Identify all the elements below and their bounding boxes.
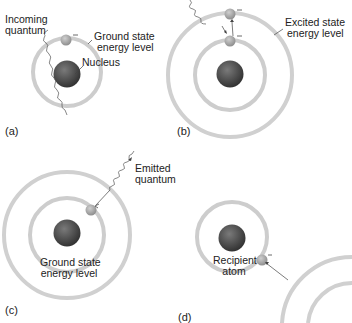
recipient-atom-label: Recipient atom [213, 255, 255, 277]
neighbor-outer-arc [282, 257, 352, 323]
nucleus [217, 61, 244, 88]
emitted-quantum-wave [109, 151, 134, 190]
electron [61, 35, 72, 46]
electron-ground [225, 36, 236, 47]
nucleus [54, 220, 81, 247]
panel-d-tag: (d) [178, 311, 191, 323]
label-line: atom [213, 266, 255, 277]
label-line: energy level [40, 268, 98, 279]
panel-c-tag: (c) [5, 304, 18, 316]
label-line: quantum [5, 25, 48, 36]
panel-b-atom [168, 0, 292, 137]
label-line: energy level [285, 28, 345, 39]
panel-a-atom [33, 30, 101, 115]
label-line: energy level [94, 42, 155, 53]
emitted-quantum-label: Emitted quantum [135, 163, 176, 185]
label-line: quantum [135, 174, 176, 185]
electron-excited [225, 9, 236, 20]
nucleus-label: Nucleus [82, 57, 120, 68]
nucleus [219, 225, 246, 252]
electron [86, 205, 97, 216]
nucleus [54, 61, 81, 88]
panel-a-tag: (a) [5, 125, 18, 137]
incoming-quantum-label: Incoming quantum [5, 14, 48, 36]
excited-state-label: Excited state energy level [285, 17, 345, 39]
ground-state-label-a: Ground state energy level [94, 31, 155, 53]
ground-state-label-c: Ground state energy level [40, 257, 98, 279]
electron [257, 255, 268, 266]
panel-b-tag: (b) [177, 125, 190, 137]
neighbor-inner-arc [308, 283, 352, 323]
